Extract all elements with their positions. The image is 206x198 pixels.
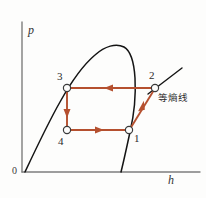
arrow-3-to-4 (64, 109, 71, 118)
arrow-4-to-1 (95, 127, 104, 134)
state-point-3[interactable] (63, 84, 70, 91)
isentropic-line-label: 等熵线 (158, 93, 188, 103)
state-point-label-1: 1 (134, 133, 140, 144)
y-axis-label: p (28, 24, 34, 36)
x-axis-label: h (168, 174, 174, 186)
state-point-4[interactable] (63, 126, 70, 133)
arrow-1-to-2 (136, 101, 146, 112)
saturation-dome-curve (25, 45, 135, 172)
state-point-2[interactable] (151, 84, 158, 91)
origin-label: 0 (12, 166, 17, 176)
state-point-label-3: 3 (57, 71, 63, 82)
state-point-label-4: 4 (58, 136, 64, 147)
state-point-label-2: 2 (149, 70, 155, 81)
cycle-group (64, 85, 155, 134)
state-point-1[interactable] (125, 126, 132, 133)
ph-cycle-figure: p h 0 1 2 3 4 等熵线 (0, 0, 206, 198)
arrow-2-to-3 (104, 85, 113, 92)
